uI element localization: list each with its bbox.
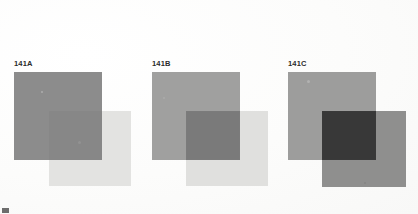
plate-sheet: 141A141B141C	[0, 0, 418, 214]
plate-label-141c: 141C	[288, 60, 307, 68]
intersection-patch-141c	[322, 111, 376, 160]
registration-corner-mark	[2, 208, 9, 213]
intersection-patch-141b	[186, 111, 240, 160]
plate-label-141a: 141A	[14, 60, 33, 68]
plate-label-141b: 141B	[152, 60, 171, 68]
intersection-patch-141a	[49, 111, 102, 160]
